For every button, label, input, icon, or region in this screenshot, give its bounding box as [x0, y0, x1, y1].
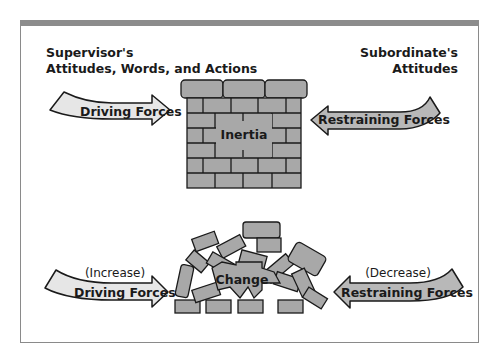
top-driving-label: Driving Forces [80, 104, 182, 119]
top-driving-forces-arrow: Driving Forces [50, 92, 182, 125]
increase-label: (Increase) [85, 266, 145, 280]
decrease-label: (Decrease) [365, 266, 431, 280]
change-brick-pile [175, 222, 328, 313]
change-label: Change [216, 272, 269, 287]
top-restraining-forces-arrow: Restraining Forces [311, 97, 450, 135]
bottom-restraining-forces-arrow: (Decrease) Restraining Forces [334, 266, 473, 308]
bottom-restraining-label: Restraining Forces [341, 285, 473, 300]
force-field-artwork: Driving Forces Restraining Forces [0, 0, 498, 352]
bottom-driving-label: Driving Forces [74, 285, 176, 300]
inertia-label: Inertia [221, 127, 268, 142]
top-restraining-label: Restraining Forces [318, 112, 450, 127]
bottom-driving-forces-arrow: (Increase) Driving Forces [45, 266, 176, 307]
